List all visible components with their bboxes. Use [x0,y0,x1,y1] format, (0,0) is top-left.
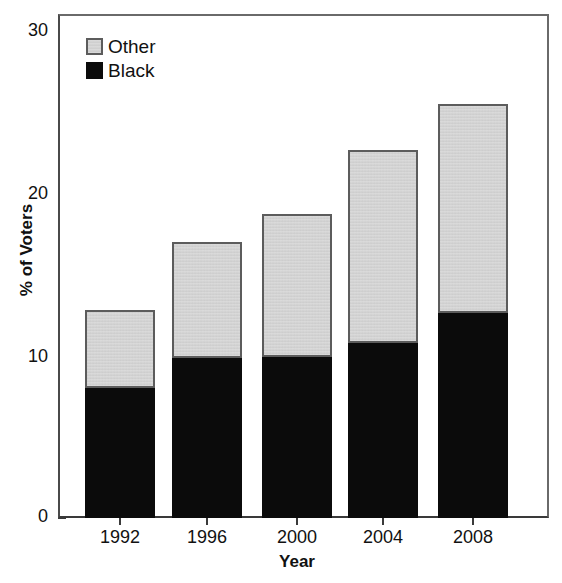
x-tick-mark-2008 [472,518,474,525]
bar-2004 [348,150,418,518]
x-tick-1992: 1992 [75,527,165,548]
x-tick-mark-2000 [296,518,298,525]
x-tick-mark-1992 [119,518,121,525]
legend-item-black: Black [86,58,156,82]
stacked-bar-chart: % of Voters 30 20 10 0 [0,0,562,583]
bar-segment-other-1996 [172,242,242,358]
legend-label-other: Other [108,37,156,56]
bar-segment-black-2008 [438,313,508,518]
bar-segment-other-2000 [262,214,332,357]
legend-item-other: Other [86,34,156,58]
x-axis-title-text: Year [279,552,315,572]
bar-1996 [172,242,242,518]
plot-area [58,14,549,518]
legend: Other Black [86,34,156,82]
bar-segment-other-1992 [85,310,155,388]
legend-swatch-other-icon [86,38,103,55]
bar-segment-black-1996 [172,358,242,518]
bar-segment-other-2008 [438,104,508,313]
y-axis-title: % of Voters [17,190,37,310]
x-tick-2000: 2000 [252,527,342,548]
x-tick-2008: 2008 [428,527,518,548]
legend-label-black: Black [108,61,154,80]
bar-1992 [85,310,155,518]
bar-segment-black-2004 [348,343,418,518]
bar-2008 [438,104,508,518]
x-axis-title: Year [0,552,562,572]
x-tick-1996: 1996 [162,527,252,548]
bar-2000 [262,214,332,518]
legend-swatch-black-icon [86,62,103,79]
bar-segment-black-1992 [85,388,155,518]
x-tick-2004: 2004 [338,527,428,548]
x-tick-mark-2004 [382,518,384,525]
bar-segment-black-2000 [262,357,332,518]
bar-segment-other-2004 [348,150,418,343]
x-tick-mark-1996 [206,518,208,525]
